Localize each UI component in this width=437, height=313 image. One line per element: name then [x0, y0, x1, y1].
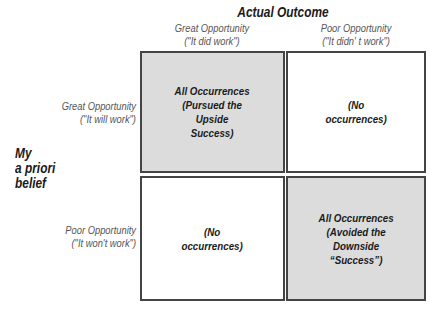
column-axis-title: Actual Outcome: [161, 4, 404, 20]
row-header-poor-line1: Poor Opportunity: [20, 224, 136, 237]
cell-poor-poor: All Occurrences (Avoided the Downside “S…: [286, 176, 426, 301]
row-header-poor: Poor Opportunity ("It won't work"): [20, 224, 136, 250]
cell-poor-great-text: (No occurrences): [182, 225, 243, 253]
column-header-great-line2: ("It did work"): [151, 35, 273, 48]
column-header-poor-line2: ("It didn' t work"): [297, 35, 416, 48]
column-header-great-line1: Great Opportunity: [151, 22, 273, 35]
cell-poor-great: (No occurrences): [140, 176, 285, 301]
cell-poor-poor-text: All Occurrences (Avoided the Downside “S…: [319, 211, 394, 267]
column-header-poor: Poor Opportunity ("It didn' t work"): [297, 22, 416, 48]
column-header-great: Great Opportunity ("It did work"): [151, 22, 273, 48]
row-header-great-line1: Great Opportunity: [20, 100, 136, 113]
row-header-great-line2: ("It will work"): [20, 113, 136, 126]
column-header-poor-line1: Poor Opportunity: [297, 22, 416, 35]
cell-great-great-text: All Occurrences (Pursued the Upside Succ…: [175, 84, 250, 140]
cell-great-great: All Occurrences (Pursued the Upside Succ…: [140, 51, 285, 173]
cell-great-poor-text: (No occurrences): [325, 98, 386, 126]
cell-great-poor: (No occurrences): [286, 51, 426, 173]
row-header-great: Great Opportunity ("It will work"): [20, 100, 136, 126]
row-header-poor-line2: ("It won't work"): [20, 237, 136, 250]
row-axis-title: My a priori belief: [15, 146, 55, 191]
